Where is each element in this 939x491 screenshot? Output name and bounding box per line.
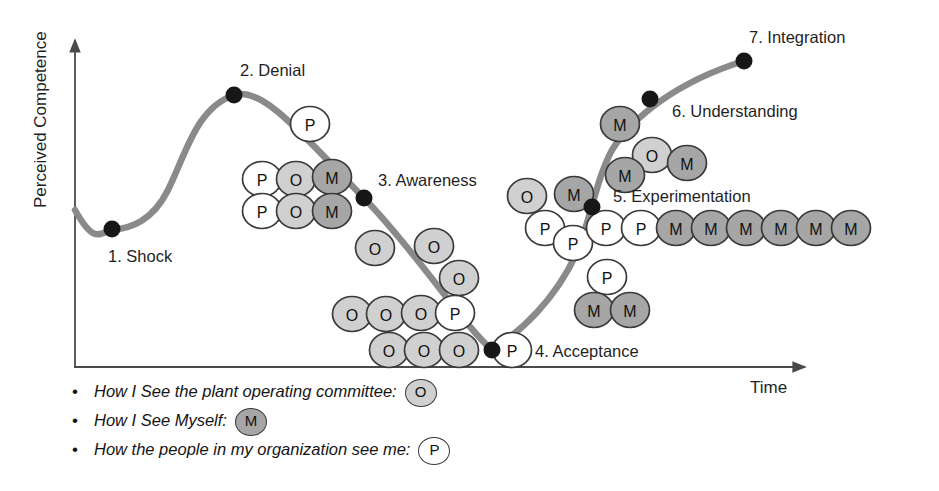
token-letter: O — [415, 306, 427, 323]
token-letter: M — [623, 303, 636, 320]
stage-label: 2. Denial — [240, 61, 305, 79]
perception-token-o: O — [370, 333, 409, 368]
token-letter: P — [601, 221, 612, 238]
perception-token-o: O — [277, 162, 316, 197]
legend-row: •How the people in my organization see m… — [72, 435, 632, 464]
perception-token-p: P — [291, 107, 330, 142]
token-letter: M — [774, 221, 787, 238]
token-letter: P — [636, 221, 647, 238]
token-letter: P — [257, 172, 268, 189]
token-letter: O — [380, 307, 392, 324]
token-letter: M — [325, 204, 338, 221]
perception-token-o: O — [356, 231, 395, 266]
perception-token-m: M — [692, 211, 731, 246]
token-letter: M — [704, 221, 717, 238]
perception-token-o: O — [440, 333, 479, 368]
token-letter: P — [602, 270, 613, 287]
token-letter: P — [540, 221, 551, 238]
token-letter: O — [369, 241, 381, 258]
stage-dot — [584, 199, 601, 216]
token-letter: P — [257, 204, 268, 221]
token-letter: M — [613, 117, 626, 134]
perception-token-o: O — [367, 297, 406, 332]
token-letter: M — [680, 156, 693, 173]
perception-token-m: M — [611, 293, 650, 328]
perception-token-m: M — [575, 293, 614, 328]
perception-token-o: O — [440, 261, 479, 296]
perception-token-p: P — [436, 296, 475, 331]
legend-row: •How I See Myself:M — [72, 406, 632, 435]
token-letter: O — [290, 172, 302, 189]
perception-token-m: M — [313, 194, 352, 229]
token-letter: O — [290, 204, 302, 221]
perception-token-p: P — [587, 211, 626, 246]
y-axis-label: Perceived Competence — [31, 31, 50, 208]
token-letter: O — [453, 271, 465, 288]
legend: •How I See the plant operating committee… — [72, 377, 632, 464]
stage-label: 4. Acceptance — [535, 342, 639, 360]
token-letter: M — [739, 221, 752, 238]
perception-token-o: O — [277, 194, 316, 229]
token-letter: P — [507, 343, 518, 360]
stage-dot — [104, 221, 121, 238]
perception-token-m: M — [762, 211, 801, 246]
token-letter: O — [418, 343, 430, 360]
stage-label: 5. Experimentation — [613, 187, 751, 205]
perception-token-layer: PPOMPOMOOOOOOPOOOPMOMMOMPPPPMMMMMMPMM — [243, 107, 871, 368]
bullet-icon: • — [72, 441, 94, 458]
token-letter: O — [428, 239, 440, 256]
stage-label: 6. Understanding — [672, 102, 798, 120]
perception-token-p: P — [622, 211, 661, 246]
legend-label: How I See the plant operating committee: — [94, 382, 397, 401]
perception-token-m: M — [601, 107, 640, 142]
perception-token-o: O — [508, 179, 547, 214]
token-letter: M — [669, 221, 682, 238]
bullet-icon: • — [72, 412, 94, 429]
bullet-icon: • — [72, 383, 94, 400]
perception-token-m: M — [313, 160, 352, 195]
stage-label: 1. Shock — [108, 247, 173, 265]
legend-token-p: P — [418, 437, 450, 465]
perception-token-m: M — [797, 211, 836, 246]
token-letter: O — [383, 343, 395, 360]
token-letter: P — [305, 117, 316, 134]
token-letter: M — [567, 187, 580, 204]
legend-row: •How I See the plant operating committee… — [72, 377, 632, 406]
stage-label: 7. Integration — [749, 28, 845, 46]
stage-label: 3. Awareness — [378, 171, 477, 189]
stage-dot — [736, 53, 753, 70]
x-axis-label: Time — [750, 378, 787, 397]
stage-marker-awareness: 3. Awareness — [356, 171, 477, 207]
perception-token-m: M — [832, 211, 871, 246]
token-letter: O — [453, 343, 465, 360]
legend-token-o: O — [405, 379, 437, 407]
token-letter: O — [646, 148, 658, 165]
stage-marker-denial: 2. Denial — [226, 61, 306, 104]
legend-token-m: M — [235, 408, 267, 436]
stage-dot — [226, 87, 243, 104]
legend-label: How the people in my organization see me… — [94, 440, 410, 459]
perception-token-m: M — [668, 146, 707, 181]
stage-dot — [356, 190, 373, 207]
legend-label: How I See Myself: — [94, 411, 227, 430]
token-letter: M — [587, 303, 600, 320]
change-curve-diagram: Perceived Competence Time PPOMPOMOOOOOOP… — [0, 0, 939, 491]
stage-marker-shock: 1. Shock — [104, 221, 173, 266]
token-letter: P — [568, 236, 579, 253]
perception-token-m: M — [657, 211, 696, 246]
token-letter: M — [618, 168, 631, 185]
token-letter: M — [809, 221, 822, 238]
stage-marker-integration: 7. Integration — [736, 28, 846, 70]
token-letter: P — [450, 306, 461, 323]
token-letter: O — [521, 189, 533, 206]
perception-token-m: M — [727, 211, 766, 246]
stage-dot — [642, 91, 659, 108]
token-letter: M — [325, 170, 338, 187]
stage-dot — [484, 342, 501, 359]
token-letter: M — [844, 221, 857, 238]
token-letter: O — [346, 307, 358, 324]
perception-token-o: O — [405, 333, 444, 368]
perception-token-p: P — [588, 260, 627, 295]
perception-token-o: O — [415, 229, 454, 264]
